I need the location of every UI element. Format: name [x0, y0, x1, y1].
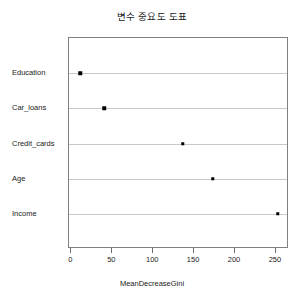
data-point [276, 212, 280, 216]
x-axis-tick-label: 0 [68, 255, 72, 264]
variable-importance-dotchart: 변수 중요도 도표 IncomeAgeCredit_cardsCar_loans… [0, 0, 304, 304]
x-axis-tick [70, 248, 71, 253]
data-point [211, 177, 215, 181]
x-axis-tick-label: 50 [107, 255, 115, 264]
x-axis-tick [234, 248, 235, 253]
data-point [102, 107, 106, 111]
x-axis-tick-label: 100 [146, 255, 159, 264]
y-axis-label-credit_cards: Credit_cards [12, 138, 55, 147]
x-axis-tick-label: 150 [187, 255, 200, 264]
grid-line [69, 179, 287, 180]
x-axis-tick [111, 248, 112, 253]
x-axis-title: MeanDecreaseGini [0, 279, 304, 288]
y-axis-label-education: Education [12, 68, 45, 77]
x-axis-tick-label: 200 [228, 255, 241, 264]
y-axis-label-age: Age [12, 173, 25, 182]
x-axis-tick [152, 248, 153, 253]
grid-line [69, 73, 287, 74]
data-point [79, 71, 83, 75]
data-point [181, 142, 185, 146]
x-axis: 050100150200250 [68, 248, 288, 268]
plot-panel [68, 37, 288, 248]
grid-line [69, 214, 287, 215]
grid-line [69, 144, 287, 145]
x-axis-tick [275, 248, 276, 253]
y-axis-label-car_loans: Car_loans [12, 103, 46, 112]
y-axis-label-income: Income [12, 208, 37, 217]
x-axis-tick [193, 248, 194, 253]
chart-title: 변수 중요도 도표 [0, 9, 304, 23]
x-axis-tick-label: 250 [269, 255, 282, 264]
